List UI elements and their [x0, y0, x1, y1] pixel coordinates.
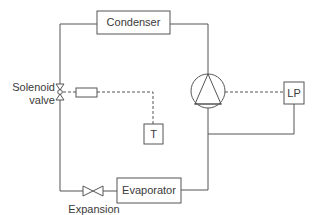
- solenoid-valve-label-line1: Solenoid: [12, 81, 55, 93]
- pipe-condenser-to-solenoid: [60, 24, 97, 84]
- evaporator-label: Evaporator: [117, 184, 181, 196]
- solenoid-valve-lower-icon: [56, 94, 64, 100]
- lp-switch-label: LP: [284, 87, 304, 99]
- sensor-bulb: [76, 88, 97, 97]
- diagram-canvas: [0, 0, 314, 215]
- expansion-valve-label-line1: Expansion: [68, 203, 120, 215]
- solenoid-valve-label-line2: valve: [29, 94, 55, 106]
- thermostat-label: T: [144, 128, 163, 140]
- compressor-triangle-icon: [195, 74, 221, 104]
- condenser-label: Condenser: [97, 16, 170, 28]
- compressor-icon: [191, 74, 225, 108]
- pipe-compressor-to-evaporator: [181, 108, 208, 190]
- bulb-to-thermostat-dashed: [97, 92, 153, 124]
- expansion-valve-icon: [83, 186, 103, 196]
- pipe-condenser-to-compressor: [170, 24, 208, 74]
- lp-connection-line: [208, 104, 294, 134]
- pipe-solenoid-to-expansion: [60, 100, 83, 191]
- solenoid-valve-icon: [56, 84, 64, 90]
